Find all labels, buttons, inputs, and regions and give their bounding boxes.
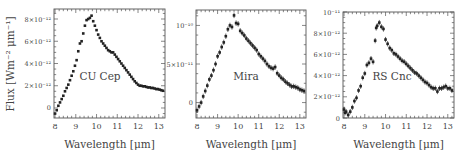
data-point (353, 100, 356, 103)
data-point (218, 51, 221, 54)
y-tick-label: 8×10⁻¹² (25, 16, 52, 24)
data-point (210, 74, 213, 77)
data-point (113, 53, 116, 56)
data-point (162, 89, 165, 92)
data-point (127, 71, 130, 74)
data-point (92, 20, 95, 23)
y-tick-label: 10⁻¹⁰ (176, 22, 193, 30)
data-point (368, 62, 371, 65)
data-point (69, 79, 72, 82)
data-point (84, 24, 87, 27)
data-point (75, 59, 78, 62)
x-tick-label: 13 (443, 122, 453, 131)
data-point (97, 33, 100, 36)
data-point (351, 106, 354, 109)
data-point (208, 78, 211, 81)
data-point (255, 49, 258, 52)
data-point (247, 40, 250, 43)
y-tick-label: 5×10⁻¹¹ (167, 61, 194, 69)
data-point (276, 72, 279, 75)
data-point (120, 62, 123, 65)
data-point (233, 14, 236, 17)
data-point (74, 64, 77, 67)
data-point (436, 90, 439, 93)
data-point (102, 42, 105, 45)
data-point (384, 38, 387, 41)
data-point (357, 89, 360, 92)
data-point (262, 57, 265, 60)
x-tick-label: 9 (73, 122, 78, 131)
data-point (112, 51, 115, 54)
data-point (257, 53, 260, 56)
data-point (64, 90, 67, 93)
figure: Flux [Wm⁻² μm⁻¹] 891011121302×10⁻¹²4×10⁻… (0, 0, 466, 154)
x-tick-label: 10 (380, 122, 390, 131)
x-tick-label: 8 (341, 122, 346, 131)
data-point (243, 34, 246, 37)
data-point (79, 42, 82, 45)
y-tick-label: 2×10⁻¹² (25, 82, 52, 90)
data-point (374, 39, 377, 42)
data-point (225, 35, 228, 38)
data-point (59, 101, 62, 104)
data-point (200, 101, 203, 104)
data-point (57, 104, 60, 107)
data-point (376, 24, 379, 27)
data-point (355, 97, 358, 100)
star-name-label: RS Cnc (372, 70, 411, 82)
data-point (264, 60, 267, 63)
y-tick-label: 0 (336, 115, 340, 123)
data-point (347, 114, 350, 117)
data-point (259, 55, 262, 58)
x-tick-label: 8 (194, 122, 199, 131)
data-point (220, 46, 223, 49)
data-point (72, 70, 75, 73)
data-point (118, 60, 121, 63)
data-point (241, 32, 244, 35)
data-point (132, 78, 135, 81)
x-axis-label: Wavelength [μm] (206, 138, 297, 150)
data-point (94, 24, 97, 27)
data-point (222, 41, 225, 44)
data-point (104, 44, 107, 47)
x-tick-label: 12 (274, 122, 284, 131)
y-tick-label: 0 (47, 104, 51, 112)
data-point (90, 14, 93, 17)
data-point (434, 87, 437, 90)
x-tick-label: 13 (295, 122, 305, 131)
y-tick-label: 4×10⁻¹² (314, 72, 341, 80)
data-point (95, 29, 98, 32)
data-point (227, 28, 230, 31)
plot-frame (196, 10, 306, 118)
data-point (363, 72, 366, 75)
panel-mira: 891011121305×10⁻¹¹10⁻¹⁰MiraWavelength [μ… (167, 10, 307, 150)
y-tick-label: 2×10⁻¹² (314, 93, 341, 101)
panel-rs-cnc: 891011121302×10⁻¹²4×10⁻¹²6×10⁻¹²8×10⁻¹²1… (314, 9, 455, 151)
data-point (349, 110, 352, 113)
y-tick-label: 10⁻¹¹ (323, 9, 340, 17)
data-point (105, 47, 108, 50)
data-point (251, 44, 254, 47)
data-point (60, 98, 63, 101)
x-tick-label: 12 (133, 122, 143, 131)
x-tick-label: 10 (91, 122, 101, 131)
y-tick-label: 6×10⁻¹² (25, 38, 52, 46)
star-name-label: Mira (233, 70, 258, 82)
data-point (245, 37, 248, 40)
x-tick-label: 9 (362, 122, 367, 131)
data-point (253, 47, 256, 50)
data-point (128, 73, 131, 76)
data-point (125, 69, 128, 72)
data-point (196, 109, 199, 112)
data-point (303, 90, 306, 93)
y-axis-label: Flux [Wm⁻² μm⁻¹] (4, 16, 16, 111)
x-axis-label: Wavelength [μm] (353, 138, 444, 150)
data-point (65, 87, 68, 90)
x-tick-label: 11 (254, 122, 264, 131)
data-point (67, 83, 70, 86)
data-point (361, 76, 364, 79)
data-point (239, 30, 242, 33)
x-tick-label: 13 (154, 122, 164, 131)
data-point (80, 40, 83, 43)
x-axis-label: Wavelength [μm] (64, 138, 155, 150)
